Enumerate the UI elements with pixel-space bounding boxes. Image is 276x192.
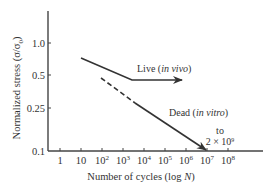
y-tick-label: 0.25	[27, 103, 45, 114]
svg-text:2 × 109: 2 × 109	[206, 136, 235, 147]
svg-text:to: to	[216, 125, 224, 136]
x-tick-label: 1	[57, 155, 62, 166]
x-tick-label: 102	[95, 154, 110, 166]
x-tick-label: 105	[158, 154, 173, 166]
series-dead-dashed	[101, 78, 135, 103]
y-tick-label: 1.0	[32, 38, 45, 49]
y-tick-label: 0.1	[32, 146, 45, 157]
y-tick-label: 0.5	[32, 70, 45, 81]
y-tick-labels: 1.0 0.5 0.25 0.1	[27, 38, 45, 157]
series-dead-label: Dead (in vitro)	[169, 107, 228, 119]
x-axis-label: Number of cycles (log N)	[87, 171, 195, 183]
limit-annotation: to 2 × 109	[206, 125, 235, 147]
x-tick-label: 107	[200, 154, 215, 166]
x-tick-label: 108	[221, 154, 236, 166]
x-tick-labels: 1 10 102 103 104 105 106 107 108	[57, 154, 235, 166]
x-tick-label: 104	[137, 154, 152, 166]
x-tick-label: 106	[179, 154, 194, 166]
y-axis-label: Normalized stress (σ/σ0)	[11, 36, 25, 139]
x-tick-label: 10	[76, 155, 87, 166]
series-live-label: Live (in vivo)	[137, 63, 191, 75]
x-tick-label: 103	[116, 154, 131, 166]
fatigue-chart: 1.0 0.5 0.25 0.1 1 10 102 103 104 105 10…	[0, 0, 276, 192]
